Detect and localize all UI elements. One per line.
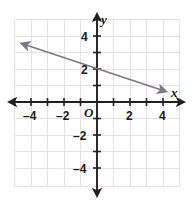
origin-label: O: [84, 106, 93, 119]
x-tick-label-neg4: –4: [23, 110, 36, 122]
y-axis-label: y: [101, 13, 107, 26]
y-tick-label-pos2: 2: [81, 64, 88, 76]
x-tick-label-neg2: –2: [56, 110, 69, 122]
y-tick-label-neg4: –4: [73, 163, 86, 175]
x-tick-label-pos2: 2: [126, 110, 133, 122]
graph-canvas: [0, 0, 193, 207]
x-axis-label: x: [171, 86, 178, 99]
y-tick-label-pos4: 4: [81, 31, 88, 43]
coordinate-plane-figure: –4 –2 2 4 4 2 –2 –4 O y x: [0, 0, 193, 207]
y-tick-label-neg2: –2: [73, 130, 86, 142]
x-tick-label-pos4: 4: [159, 110, 166, 122]
